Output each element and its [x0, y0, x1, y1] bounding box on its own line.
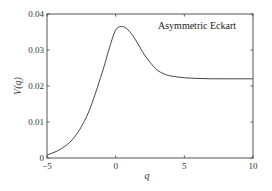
x-axis-ticks: −50510	[42, 14, 258, 171]
plot-frame	[47, 14, 253, 158]
y-tick-label: 0	[40, 153, 45, 163]
x-tick-label: 5	[182, 161, 187, 171]
chart-annotation: Asymmetric Eckart	[158, 20, 236, 31]
y-tick-label: 0.04	[28, 9, 44, 19]
y-axis-label: V(q)	[12, 76, 24, 94]
y-tick-label: 0.02	[28, 81, 44, 91]
y-axis-ticks: 00.010.020.030.04	[28, 9, 253, 163]
eckart-potential-chart: −50510 00.010.020.030.04 Asymmetric Ecka…	[0, 0, 272, 191]
x-tick-label: 0	[113, 161, 118, 171]
y-tick-label: 0.01	[28, 117, 44, 127]
y-tick-label: 0.03	[28, 45, 44, 55]
x-axis-label: q	[145, 170, 150, 181]
x-tick-label: 10	[249, 161, 259, 171]
potential-curve	[47, 27, 253, 156]
